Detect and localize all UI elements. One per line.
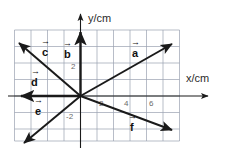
vector-f-letter: f (130, 121, 134, 133)
vector-label-b: → b (63, 38, 72, 60)
x-tick-label-6: 6 (149, 99, 154, 108)
vector-d-letter: d (31, 76, 38, 88)
y-tick-label-neg2: -2 (66, 112, 74, 121)
x-tick-label-4: 4 (124, 99, 129, 108)
vector-f-overbar: → (128, 111, 137, 121)
axis-x-label: x/cm (186, 72, 209, 84)
vector-b-letter: b (64, 48, 71, 60)
vector-c-overbar: → (41, 36, 50, 46)
y-tick-label-2: 2 (71, 62, 76, 71)
axis-y-label: y/cm (88, 12, 111, 24)
vector-a-letter: a (132, 47, 139, 59)
vector-b-overbar: → (63, 38, 72, 48)
vector-a-overbar: → (131, 37, 140, 47)
vector-diagram-figure: x/cm y/cm 2 4 6 2 -2 → a (0, 0, 232, 152)
vector-d-overbar: → (31, 66, 40, 76)
vector-e-overbar: → (34, 95, 43, 105)
vector-c-letter: c (42, 46, 48, 58)
vector-diagram-canvas: x/cm y/cm 2 4 6 2 -2 → a (0, 0, 232, 152)
vector-e-letter: e (35, 105, 41, 117)
